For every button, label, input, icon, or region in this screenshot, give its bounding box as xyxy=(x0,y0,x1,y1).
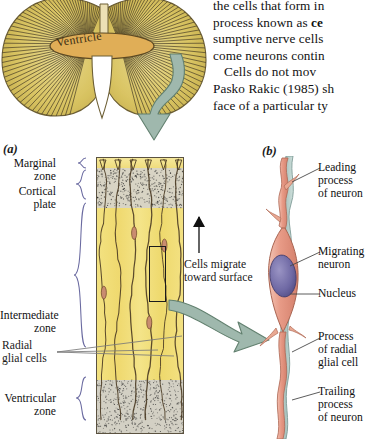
label-cortical-plate: Cortical plate xyxy=(0,186,56,211)
label-process-of-radial-glial-cell: Process of radial glial cell xyxy=(318,331,368,369)
label-trailing-process-of-neuron: Trailing process of neuron xyxy=(318,386,368,424)
zone-braces xyxy=(56,155,98,437)
body-text-line-1: the cells that form in xyxy=(213,0,368,15)
label-marginal-zone-line2: zone xyxy=(34,170,56,183)
body-text-line-2: process known as ce xyxy=(213,15,368,32)
body-text-line-3: sumptive nerve cells xyxy=(213,31,368,48)
label-trailing-process-line2: process xyxy=(318,398,353,411)
label-intermediate-zone: Intermediate zone xyxy=(0,310,56,335)
label-trailing-process-line1: Trailing xyxy=(318,385,355,398)
label-leading-process-of-neuron: Leading process of neuron xyxy=(318,162,368,200)
label-ventricular-zone-line1: Ventricular xyxy=(4,392,56,405)
label-radial-process-line3: glial cell xyxy=(318,356,358,369)
label-cells-migrate-line1: Cells migrate xyxy=(184,258,246,271)
label-migrating-neuron-line1: Migrating xyxy=(318,245,364,258)
label-ventricular-zone-line2: zone xyxy=(34,405,56,418)
body-text-line-4: come neurons contin xyxy=(213,48,368,65)
brace-marginal xyxy=(78,158,86,168)
label-radial-glial-cells: Radial glial cells xyxy=(2,340,56,365)
leading-process-branch-2 xyxy=(266,209,281,222)
label-leading-process-line3: of neuron xyxy=(318,187,363,200)
label-migrating-neuron-line2: neuron xyxy=(318,258,350,271)
leader-trailing-process xyxy=(292,392,320,400)
leader-leading-process xyxy=(292,168,320,182)
radial-glial-leader-lines xyxy=(54,330,186,370)
panel-a-letter: (a) xyxy=(3,142,18,157)
figure-root: the cells that form in process known as … xyxy=(0,0,368,439)
arrow-down-to-panel-a xyxy=(132,52,204,144)
label-radial-process-line1: Process xyxy=(318,330,353,343)
label-migrating-neuron: Migrating neuron xyxy=(318,246,368,272)
label-marginal-zone-line1: Marginal xyxy=(14,157,56,170)
arrow-up-migration-direction xyxy=(185,215,213,255)
label-radial-glial-cells-line1: Radial xyxy=(2,339,32,352)
label-leading-process-line2: process xyxy=(318,174,353,187)
body-text-column: the cells that form in process known as … xyxy=(213,0,368,114)
label-radial-process-line2: of radial xyxy=(318,343,357,356)
label-trailing-process-line3: of neuron xyxy=(318,411,363,424)
panel-b-leader-lines xyxy=(286,156,322,439)
body-text-line-2-prefix: process known as xyxy=(213,15,311,30)
label-cells-migrate-line2: toward surface xyxy=(184,271,253,284)
body-text-line-7: face of a particular ty xyxy=(213,98,368,115)
label-nucleus-line1: Nucleus xyxy=(318,287,356,300)
brace-ventricular xyxy=(76,377,86,420)
label-radial-glial-cells-line2: glial cells xyxy=(2,352,47,365)
soma-process-left xyxy=(260,328,278,346)
brace-cortical-plate xyxy=(76,170,86,199)
label-intermediate-zone-line1: Intermediate xyxy=(0,309,59,322)
body-text-line-2-bold: ce xyxy=(311,15,323,30)
label-marginal-zone: Marginal zone xyxy=(0,158,56,183)
brace-intermediate xyxy=(74,203,86,347)
leader-radial-process xyxy=(292,338,320,352)
magnified-region-box xyxy=(149,246,166,302)
midline-stalk xyxy=(92,56,112,118)
label-leading-process-line1: Leading xyxy=(318,161,356,174)
label-cortical-plate-line2: plate xyxy=(33,198,56,211)
label-cortical-plate-line1: Cortical xyxy=(19,185,56,198)
body-text-line-5: Cells do not mov xyxy=(213,64,368,81)
label-ventricular-zone: Ventricular zone xyxy=(0,393,56,418)
leader-migrating-neuron xyxy=(290,252,320,266)
body-text-line-6: Pasko Rakic (1985) sh xyxy=(213,81,368,98)
label-intermediate-zone-line2: zone xyxy=(34,322,56,335)
label-nucleus: Nucleus xyxy=(318,288,368,301)
